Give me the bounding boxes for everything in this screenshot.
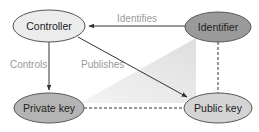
label-identifies: Identifies: [117, 13, 157, 24]
node-public-key-label: Public key: [194, 102, 243, 114]
node-private-key[interactable]: Private key: [14, 93, 84, 123]
node-identifier-label: Identifier: [198, 21, 239, 33]
node-identifier[interactable]: Identifier: [185, 12, 251, 42]
key-relationship-diagram: Identifies Controls Publishes Controller…: [0, 0, 259, 132]
label-controls: Controls: [10, 59, 47, 70]
label-publishes: Publishes: [81, 59, 124, 70]
node-controller[interactable]: Controller: [13, 10, 85, 42]
node-private-key-label: Private key: [23, 102, 76, 114]
node-controller-label: Controller: [26, 20, 72, 32]
node-public-key[interactable]: Public key: [184, 93, 252, 123]
